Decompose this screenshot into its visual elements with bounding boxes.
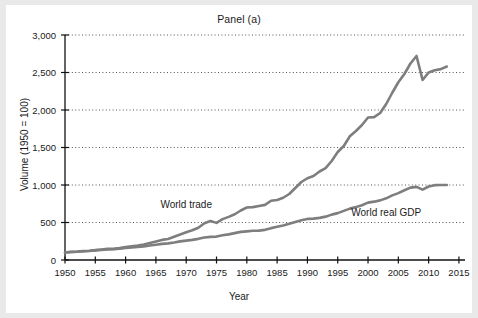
y-tick-label: 1,500 xyxy=(32,142,56,153)
x-tick-label: 2010 xyxy=(418,267,439,278)
x-tick-label: 1975 xyxy=(206,267,227,278)
x-tick-label: 1970 xyxy=(176,267,197,278)
x-tick-label: 2000 xyxy=(357,267,378,278)
x-tick-label: 1955 xyxy=(85,267,106,278)
x-tick-label: 1985 xyxy=(267,267,288,278)
y-tick-label: 500 xyxy=(40,217,56,228)
series-annotation: World trade xyxy=(160,199,212,210)
data-series-group xyxy=(65,56,447,253)
y-tick-label: 2,000 xyxy=(32,105,56,116)
x-tick-label: 1990 xyxy=(297,267,318,278)
series-annotations-group: World tradeWorld real GDP xyxy=(160,199,421,218)
chart-page: Panel (a) Volume (1950 = 100) Year 05001… xyxy=(0,0,478,318)
x-tick-labels-group: 1950195519601965197019751980198519901995… xyxy=(54,267,469,278)
y-tick-label: 3,000 xyxy=(32,30,56,41)
x-tick-label: 1965 xyxy=(145,267,166,278)
chart-figure: Panel (a) Volume (1950 = 100) Year 05001… xyxy=(6,5,472,313)
x-tick-label: 1980 xyxy=(236,267,257,278)
x-tick-label: 1995 xyxy=(327,267,348,278)
y-tick-label: 0 xyxy=(51,255,56,266)
line-chart-plot: 05001,0001,5002,0002,5003,000 1950195519… xyxy=(6,5,472,313)
gridlines-group xyxy=(65,35,465,223)
y-tick-label: 2,500 xyxy=(32,67,56,78)
series-annotation: World real GDP xyxy=(351,207,421,218)
x-tick-label: 2005 xyxy=(388,267,409,278)
y-tick-label: 1,000 xyxy=(32,180,56,191)
series-line-world-trade xyxy=(65,56,447,253)
x-tick-label: 1960 xyxy=(115,267,136,278)
y-tick-labels-group: 05001,0001,5002,0002,5003,000 xyxy=(32,30,56,266)
series-line-world-real-gdp xyxy=(65,185,447,253)
x-tick-label: 1950 xyxy=(54,267,75,278)
x-tick-label: 2015 xyxy=(448,267,469,278)
